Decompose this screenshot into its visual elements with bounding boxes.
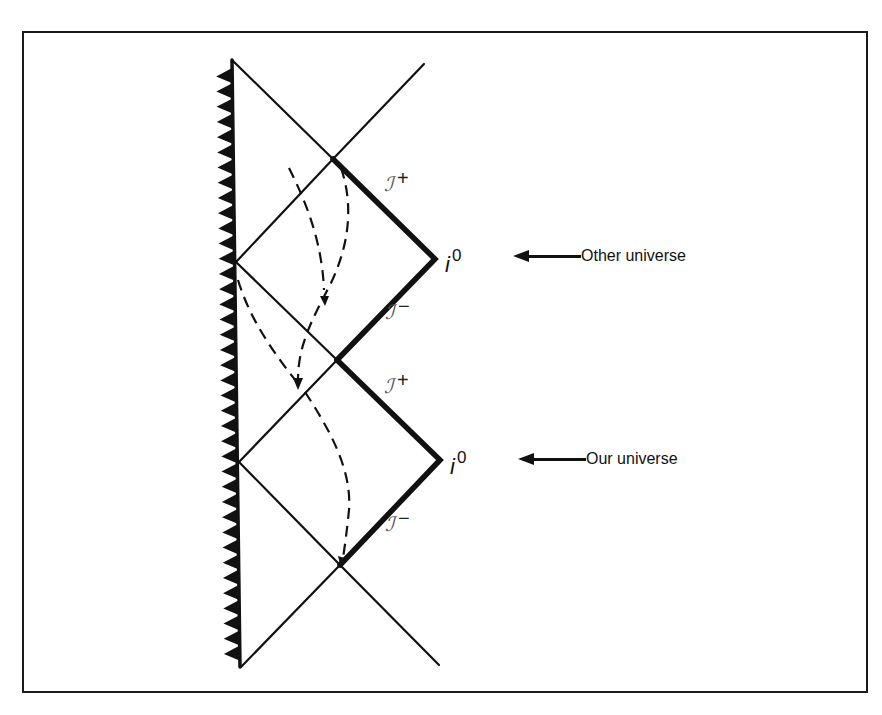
scri-minus-lower-label: ℐ− bbox=[385, 512, 410, 536]
figure-frame bbox=[23, 32, 867, 692]
null-lines bbox=[232, 60, 439, 667]
callout-our-universe: Our universe bbox=[520, 450, 678, 468]
scri-symbol: ℐ bbox=[384, 172, 393, 196]
scri-symbol: ℐ bbox=[385, 512, 394, 536]
scri-sign: + bbox=[397, 369, 409, 391]
scri-symbol: ℐ bbox=[384, 374, 393, 398]
arrowhead-a bbox=[320, 296, 329, 306]
callout-label: Other universe bbox=[581, 247, 686, 265]
spatial-infinity-lower-label: i0 bbox=[450, 454, 466, 480]
scri-sign: − bbox=[398, 507, 410, 529]
spatial-infinity-upper-label: i0 bbox=[445, 252, 461, 278]
trajectory-d bbox=[305, 392, 349, 558]
io-symbol: i bbox=[450, 454, 455, 479]
arrowhead-b bbox=[293, 378, 303, 390]
scri-boundaries bbox=[333, 159, 440, 565]
scri-minus-upper-label: ℐ− bbox=[385, 300, 410, 324]
singularity-zigzag bbox=[216, 60, 240, 667]
trajectory-c bbox=[238, 280, 300, 386]
io-superscript: 0 bbox=[452, 246, 461, 265]
io-superscript: 0 bbox=[457, 448, 466, 467]
scri-sign: − bbox=[398, 295, 410, 317]
scri-plus-upper-label: ℐ+ bbox=[384, 172, 409, 196]
callout-other-universe: Other universe bbox=[515, 247, 686, 265]
scri-symbol: ℐ bbox=[385, 300, 394, 324]
callout-label: Our universe bbox=[586, 450, 678, 468]
left-arrow-icon bbox=[525, 255, 581, 258]
left-arrow-icon bbox=[530, 458, 586, 461]
io-symbol: i bbox=[445, 252, 450, 277]
scri-plus-lower-label: ℐ+ bbox=[384, 374, 409, 398]
scri-sign: + bbox=[397, 167, 409, 189]
penrose-diagram bbox=[0, 0, 882, 715]
dashed-trajectories bbox=[238, 168, 349, 568]
